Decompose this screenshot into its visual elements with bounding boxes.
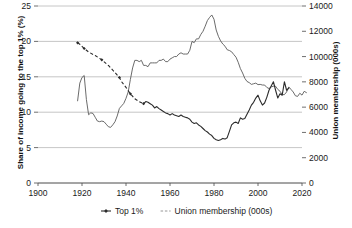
- x-axis-ticks: 1900192019401960198020002020: [29, 183, 312, 198]
- svg-text:25: 25: [22, 1, 32, 11]
- chart-container: Share of income going to the top 1% (%) …: [0, 0, 352, 228]
- svg-text:1960: 1960: [161, 188, 180, 198]
- svg-text:Union membership (000s): Union membership (000s): [175, 206, 273, 216]
- y-axis-left-ticks: 0510152025: [22, 1, 38, 188]
- svg-text:1920: 1920: [73, 188, 92, 198]
- svg-text:10000: 10000: [309, 52, 333, 62]
- svg-text:14000: 14000: [309, 1, 333, 11]
- chart-legend: Top 1%Union membership (000s): [101, 206, 273, 216]
- svg-text:Top 1%: Top 1%: [115, 206, 144, 216]
- chart-plot-area: 0510152025 02000400060008000100001200014…: [0, 0, 352, 228]
- svg-text:4000: 4000: [309, 127, 328, 137]
- svg-text:15: 15: [22, 72, 32, 82]
- gridlines: [38, 6, 302, 148]
- svg-text:6000: 6000: [309, 102, 328, 112]
- svg-text:20: 20: [22, 36, 32, 46]
- svg-text:1940: 1940: [117, 188, 136, 198]
- svg-text:2020: 2020: [293, 188, 312, 198]
- svg-text:1980: 1980: [205, 188, 224, 198]
- svg-text:2000: 2000: [249, 188, 268, 198]
- svg-text:1900: 1900: [29, 188, 48, 198]
- svg-text:0: 0: [309, 178, 314, 188]
- svg-text:2000: 2000: [309, 153, 328, 163]
- svg-text:8000: 8000: [309, 77, 328, 87]
- svg-text:0: 0: [26, 178, 31, 188]
- y-axis-right-ticks: 02000400060008000100001200014000: [302, 1, 333, 188]
- svg-text:12000: 12000: [309, 26, 333, 36]
- svg-text:5: 5: [26, 143, 31, 153]
- svg-text:10: 10: [22, 107, 32, 117]
- series-union-membership: [78, 15, 307, 127]
